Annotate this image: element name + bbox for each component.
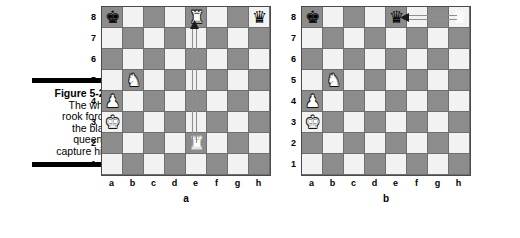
square-d8[interactable] (165, 7, 186, 28)
square-b1[interactable] (323, 154, 344, 175)
square-b8[interactable] (123, 7, 144, 28)
square-h8[interactable]: ♛ (249, 7, 270, 28)
square-d4[interactable] (165, 91, 186, 112)
square-f6[interactable] (407, 49, 428, 70)
square-c6[interactable] (344, 49, 365, 70)
board-grid-a[interactable]: ♚♜♛♞♟♚♜ (101, 6, 271, 176)
square-c6[interactable] (144, 49, 165, 70)
square-f3[interactable] (207, 112, 228, 133)
square-e4[interactable] (386, 91, 407, 112)
square-c4[interactable] (344, 91, 365, 112)
black-king-icon[interactable]: ♚ (302, 7, 323, 28)
square-h2[interactable] (249, 133, 270, 154)
square-b2[interactable] (323, 133, 344, 154)
square-d6[interactable] (165, 49, 186, 70)
square-g3[interactable] (228, 112, 249, 133)
square-b5[interactable]: ♞ (323, 70, 344, 91)
square-d8[interactable] (365, 7, 386, 28)
square-e5[interactable] (186, 70, 207, 91)
square-g3[interactable] (428, 112, 449, 133)
square-c2[interactable] (144, 133, 165, 154)
square-a5[interactable] (102, 70, 123, 91)
square-d6[interactable] (365, 49, 386, 70)
square-f4[interactable] (207, 91, 228, 112)
square-g7[interactable] (428, 28, 449, 49)
square-b4[interactable] (123, 91, 144, 112)
square-a6[interactable] (302, 49, 323, 70)
square-g2[interactable] (228, 133, 249, 154)
square-a3[interactable]: ♚ (302, 112, 323, 133)
square-f1[interactable] (207, 154, 228, 175)
square-f3[interactable] (407, 112, 428, 133)
square-h1[interactable] (449, 154, 470, 175)
square-e6[interactable] (386, 49, 407, 70)
square-d7[interactable] (165, 28, 186, 49)
square-a8[interactable]: ♚ (302, 7, 323, 28)
square-e3[interactable] (386, 112, 407, 133)
square-b1[interactable] (123, 154, 144, 175)
square-h5[interactable] (449, 70, 470, 91)
square-b7[interactable] (123, 28, 144, 49)
square-d1[interactable] (365, 154, 386, 175)
black-queen-icon[interactable]: ♛ (249, 7, 270, 28)
square-a6[interactable] (102, 49, 123, 70)
square-d5[interactable] (365, 70, 386, 91)
square-e1[interactable] (186, 154, 207, 175)
square-e1[interactable] (386, 154, 407, 175)
square-h5[interactable] (249, 70, 270, 91)
black-king-icon[interactable]: ♚ (102, 7, 123, 28)
white-knight-icon[interactable]: ♞ (123, 70, 144, 91)
square-e3[interactable] (186, 112, 207, 133)
square-h4[interactable] (449, 91, 470, 112)
square-c8[interactable] (144, 7, 165, 28)
square-d1[interactable] (165, 154, 186, 175)
square-g1[interactable] (428, 154, 449, 175)
square-a4[interactable]: ♟ (302, 91, 323, 112)
square-e8[interactable]: ♛ (386, 7, 407, 28)
square-a2[interactable] (102, 133, 123, 154)
square-f5[interactable] (407, 70, 428, 91)
square-g8[interactable] (428, 7, 449, 28)
white-knight-icon[interactable]: ♞ (323, 70, 344, 91)
square-e8[interactable]: ♜ (186, 7, 207, 28)
square-c3[interactable] (144, 112, 165, 133)
white-king-icon[interactable]: ♚ (302, 112, 323, 133)
square-c8[interactable] (344, 7, 365, 28)
square-g6[interactable] (228, 49, 249, 70)
square-d3[interactable] (365, 112, 386, 133)
square-h3[interactable] (249, 112, 270, 133)
square-b4[interactable] (323, 91, 344, 112)
square-f1[interactable] (407, 154, 428, 175)
square-g4[interactable] (428, 91, 449, 112)
square-e2[interactable] (386, 133, 407, 154)
square-h8[interactable]: ♛ (449, 7, 470, 28)
square-a5[interactable] (302, 70, 323, 91)
square-h4[interactable] (249, 91, 270, 112)
square-c7[interactable] (144, 28, 165, 49)
square-e2[interactable]: ♜ (186, 133, 207, 154)
square-h7[interactable] (249, 28, 270, 49)
square-a3[interactable]: ♚ (102, 112, 123, 133)
square-h6[interactable] (449, 49, 470, 70)
square-g5[interactable] (228, 70, 249, 91)
square-a2[interactable] (302, 133, 323, 154)
square-g1[interactable] (228, 154, 249, 175)
square-d3[interactable] (165, 112, 186, 133)
square-e7[interactable] (386, 28, 407, 49)
square-b5[interactable]: ♞ (123, 70, 144, 91)
square-d2[interactable] (165, 133, 186, 154)
square-c1[interactable] (344, 154, 365, 175)
square-d2[interactable] (365, 133, 386, 154)
square-b3[interactable] (123, 112, 144, 133)
rook-origin-ghost-icon[interactable]: ♜ (186, 133, 207, 154)
square-g4[interactable] (228, 91, 249, 112)
square-f8[interactable] (207, 7, 228, 28)
square-c2[interactable] (344, 133, 365, 154)
black-queen-icon[interactable]: ♛ (386, 7, 407, 28)
square-a1[interactable] (102, 154, 123, 175)
square-h2[interactable] (449, 133, 470, 154)
square-f2[interactable] (407, 133, 428, 154)
square-d5[interactable] (165, 70, 186, 91)
square-g2[interactable] (428, 133, 449, 154)
square-a4[interactable]: ♟ (102, 91, 123, 112)
